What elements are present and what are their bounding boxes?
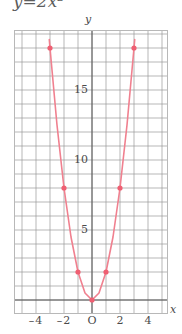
data-point [61,185,66,190]
figure-title: y=2x² [13,0,64,11]
figure-root: y=2x² y x –4–2O24 51015 [0,0,182,334]
data-point [89,297,94,302]
y-tick-label: 10 [68,153,88,166]
data-point [131,45,136,50]
graph-panel [14,30,168,314]
y-tick-label: 15 [68,83,88,96]
data-point [117,185,122,190]
data-point [75,269,80,274]
x-tick-label: 4 [137,314,159,327]
y-tick-label: 5 [68,223,88,236]
y-axis-label: y [85,13,91,26]
x-tick-label: 2 [109,314,131,327]
x-tick-label: O [81,314,103,327]
data-point [47,45,52,50]
data-point-markers [47,45,136,302]
parabola-curve [49,40,134,300]
data-point [103,269,108,274]
x-tick-label: –2 [53,314,75,327]
x-tick-label: –4 [25,314,47,327]
x-axis-label: x [170,303,176,316]
curve-layer [14,30,168,314]
